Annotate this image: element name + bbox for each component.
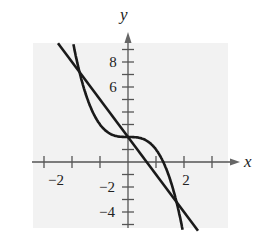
x-tick-label-2: 2 (182, 172, 190, 188)
x-tick-label-neg2: −2 (48, 172, 64, 188)
y-axis-arrow-icon (125, 32, 132, 43)
y-tick-label-6: 6 (109, 79, 117, 95)
x-axis-label: x (243, 152, 252, 171)
chart: y x −2 2 8 6 −2 −4 (0, 0, 261, 242)
y-tick-label-neg4: −4 (99, 204, 115, 220)
y-tick-label-neg2: −2 (99, 179, 115, 195)
y-tick-label-8: 8 (109, 54, 117, 70)
x-axis-arrow-icon (230, 159, 240, 166)
y-axis-label: y (118, 5, 128, 24)
plot-background (33, 43, 228, 228)
